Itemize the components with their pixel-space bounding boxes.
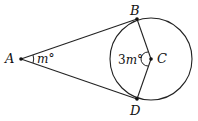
label-c: C xyxy=(157,51,167,66)
label-a: A xyxy=(4,51,14,66)
angle-arc-a xyxy=(33,55,34,63)
label-d: D xyxy=(129,103,141,118)
point-c-dot xyxy=(149,57,153,61)
geometry-diagram: A B C D m° 3m° xyxy=(0,0,198,121)
angle-label-c: 3m° xyxy=(118,53,143,67)
label-b: B xyxy=(129,3,140,18)
point-a-dot xyxy=(19,57,23,61)
point-d-dot xyxy=(135,97,139,101)
angle-label-a: m° xyxy=(37,52,54,66)
